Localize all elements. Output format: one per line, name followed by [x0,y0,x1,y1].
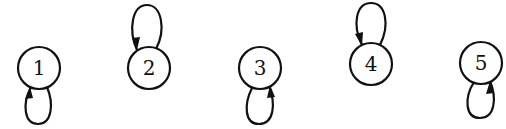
node-label: 1 [33,56,46,80]
node-4: 4 [350,3,392,85]
node-label: 2 [143,56,156,80]
node-label: 5 [475,51,488,75]
node-3: 3 [239,47,281,124]
arrowhead-icon [355,32,363,46]
node-5: 5 [460,42,502,118]
graph-canvas: 1 2 3 4 5 [0,0,506,129]
node-1: 1 [18,47,60,124]
node-label: 4 [365,52,378,76]
node-2: 2 [128,5,170,89]
node-label: 3 [254,56,267,80]
